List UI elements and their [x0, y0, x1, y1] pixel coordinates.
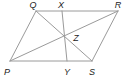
label-S: S	[89, 68, 95, 77]
side-RS	[92, 11, 118, 61]
label-Q: Q	[29, 1, 36, 10]
side-PQ	[10, 11, 36, 61]
label-Y: Y	[64, 68, 70, 77]
diagram-lines	[0, 0, 123, 78]
label-P: P	[4, 68, 10, 77]
label-Z: Z	[73, 34, 79, 43]
segment-XY	[62, 11, 67, 61]
label-X: X	[58, 1, 64, 10]
geometry-diagram: Q X R Z P Y S	[0, 0, 123, 78]
label-R: R	[115, 1, 122, 10]
